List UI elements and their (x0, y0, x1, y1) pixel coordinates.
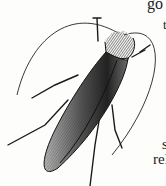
text-fragment-upper-right: t (163, 18, 166, 31)
cockroach-illustration (0, 0, 166, 186)
text-fragment-middle-right: s (162, 137, 166, 152)
text-fragment-top: go (147, 0, 163, 12)
text-fragment-lower-right: rel (153, 152, 166, 167)
book-page: go t s rel (0, 0, 166, 186)
